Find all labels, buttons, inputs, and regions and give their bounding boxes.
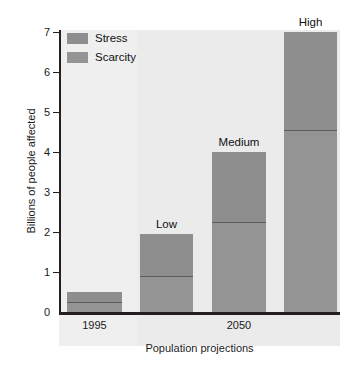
- y-tick-5: [53, 112, 60, 113]
- legend-label-scarcity: Scarcity: [95, 52, 136, 64]
- y-tick-3: [53, 192, 60, 193]
- bar-high: [284, 32, 337, 312]
- bar-segment-stress: [284, 32, 337, 130]
- y-axis-title: Billions of people affected: [25, 61, 37, 281]
- legend-swatch-stress: [67, 33, 88, 44]
- bar-annotation-medium: Medium: [207, 136, 271, 148]
- bar-segment-scarcity: [284, 130, 337, 312]
- x-axis-title: Population projections: [59, 342, 340, 354]
- bar-divider: [67, 302, 122, 303]
- bar-1995: [67, 292, 122, 312]
- bar-divider: [284, 130, 337, 131]
- y-tick-1: [53, 272, 60, 273]
- y-tick-4: [53, 152, 60, 153]
- bar-medium: [212, 152, 266, 312]
- bar-segment-scarcity: [67, 302, 122, 312]
- bar-low: [140, 234, 193, 312]
- x-tick-label-2050: 2050: [212, 319, 266, 331]
- bar-segment-stress: [140, 234, 193, 276]
- legend-item-scarcity: Scarcity: [67, 50, 136, 65]
- legend-label-stress: Stress: [95, 33, 128, 45]
- bar-segment-scarcity: [140, 276, 193, 312]
- bar-segment-scarcity: [212, 222, 266, 312]
- legend: Stress Scarcity: [67, 31, 136, 69]
- y-tick-7: [53, 32, 60, 33]
- legend-item-stress: Stress: [67, 31, 136, 46]
- x-axis-line: [59, 312, 340, 315]
- bar-annotation-low: Low: [140, 218, 193, 230]
- bar-segment-stress: [212, 152, 266, 222]
- y-tick-label-0: 0: [28, 307, 50, 318]
- y-tick-6: [53, 72, 60, 73]
- x-tick-label-1995: 1995: [67, 319, 122, 331]
- bar-divider: [212, 222, 266, 223]
- bar-annotation-high: High: [284, 16, 337, 28]
- legend-swatch-scarcity: [67, 52, 88, 63]
- y-tick-2: [53, 232, 60, 233]
- bar-segment-stress: [67, 292, 122, 302]
- chart-container: Stress Scarcity 7 6 5 4 3 2 1 0 Billions…: [0, 0, 357, 372]
- bar-divider: [140, 276, 193, 277]
- y-tick-label-7: 7: [28, 27, 50, 38]
